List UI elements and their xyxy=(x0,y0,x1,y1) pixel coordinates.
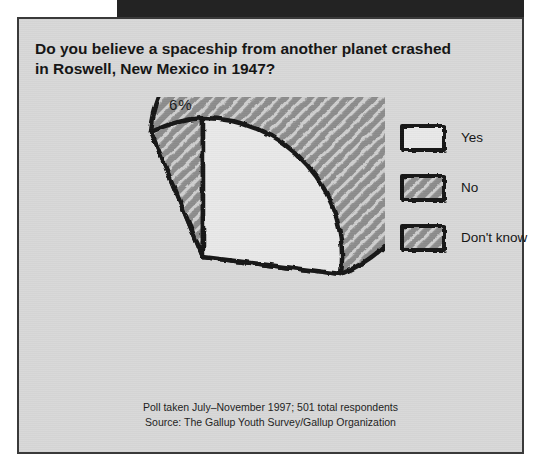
header-banner xyxy=(117,0,524,18)
legend-item-yes[interactable]: Yes xyxy=(399,123,519,173)
source-note: Poll taken July–November 1997; 501 total… xyxy=(19,400,522,430)
legend-swatch-dont-know xyxy=(399,223,447,253)
slice-label-dont-know: 6% xyxy=(169,96,193,113)
legend-swatch-no xyxy=(399,173,447,203)
page-title: Do you believe a spaceship from another … xyxy=(35,39,455,80)
legend-swatch-yes xyxy=(399,123,447,153)
infographic-root: Do you believe a spaceship from another … xyxy=(0,0,544,475)
legend-item-dont-know[interactable]: Don't know xyxy=(399,223,519,273)
source-note-line-1: Poll taken July–November 1997; 501 total… xyxy=(19,400,522,415)
pie-chart: 6% xyxy=(35,97,385,397)
legend: Yes No Don't know xyxy=(399,123,519,273)
legend-label-dont-know: Don't know xyxy=(461,230,527,245)
chart-panel: Do you believe a spaceship from another … xyxy=(17,17,524,454)
legend-label-no: No xyxy=(461,180,478,195)
legend-item-no[interactable]: No xyxy=(399,173,519,223)
legend-label-yes: Yes xyxy=(461,130,483,145)
source-note-line-2: Source: The Gallup Youth Survey/Gallup O… xyxy=(19,415,522,430)
pie-svg xyxy=(35,97,385,397)
pie-slice-dont-know xyxy=(151,118,203,257)
